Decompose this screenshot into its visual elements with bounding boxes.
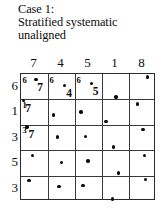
grid-vertical-line [102, 74, 103, 199]
data-point [57, 185, 60, 188]
row-label-column: 61353 [1, 73, 19, 200]
data-point [31, 154, 34, 157]
column-header-2: 4 [47, 55, 74, 71]
data-point [136, 102, 139, 105]
cell-annotation-row-offset: 3 [23, 126, 27, 135]
data-point [117, 171, 120, 174]
figure-caption: Case 1: Stratified systematic unaligned [18, 3, 164, 42]
cell-annotation-row-offset: 6 [23, 76, 27, 85]
data-point [144, 178, 147, 181]
caption-line-3: unaligned [18, 29, 164, 42]
data-point [84, 135, 87, 138]
cell-annotation-col-offset: 7 [25, 103, 31, 115]
cell-annotation-col-offset: 4 [66, 88, 72, 100]
data-point [114, 95, 117, 98]
data-point [146, 75, 149, 78]
column-header-1: 7 [20, 55, 47, 71]
data-point [86, 159, 89, 162]
column-header-3: 5 [74, 55, 101, 71]
cell-annotation-col-offset: 7 [37, 82, 43, 94]
cell-annotation-row-offset: 6 [77, 76, 81, 85]
column-header-row: 74518 [20, 55, 155, 71]
data-point [143, 154, 146, 157]
cell-annotation-row-offset: 6 [50, 76, 54, 85]
row-label-4: 5 [1, 149, 18, 174]
grid-vertical-line [129, 74, 130, 199]
grid-vertical-line [75, 74, 76, 199]
grid-horizontal-line [21, 99, 154, 100]
cell-annotation-col-offset: 7 [28, 129, 34, 141]
column-header-5: 8 [128, 55, 155, 71]
figure-stratified-systematic-unaligned: Case 1: Stratified systematic unaligned … [0, 0, 164, 209]
sampling-grid: 6764651737 [20, 73, 155, 200]
data-point [60, 161, 63, 164]
row-label-5: 3 [1, 175, 18, 200]
grid-vertical-line [48, 74, 49, 199]
data-point [111, 197, 114, 200]
column-header-4: 1 [101, 55, 128, 71]
row-label-2: 1 [1, 98, 18, 123]
data-point [104, 120, 107, 123]
data-point [112, 145, 115, 148]
data-point [141, 128, 144, 131]
grid-horizontal-line [21, 150, 154, 151]
row-label-3: 3 [1, 124, 18, 149]
data-point [27, 179, 30, 182]
grid-horizontal-line [21, 125, 154, 126]
data-point [79, 110, 82, 113]
grid-horizontal-line [21, 176, 154, 177]
row-label-1: 6 [1, 73, 18, 98]
data-point [81, 184, 84, 187]
data-point [52, 113, 55, 116]
cell-annotation-col-offset: 5 [93, 86, 99, 98]
data-point [56, 135, 59, 138]
